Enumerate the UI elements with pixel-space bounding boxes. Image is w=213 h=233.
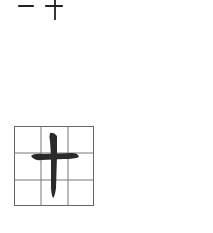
stroke-step-2-icon — [0, 0, 80, 20]
calligraphy-character-icon — [14, 126, 94, 206]
stroke-order-sequence — [0, 0, 80, 20]
practice-grid — [14, 126, 94, 206]
